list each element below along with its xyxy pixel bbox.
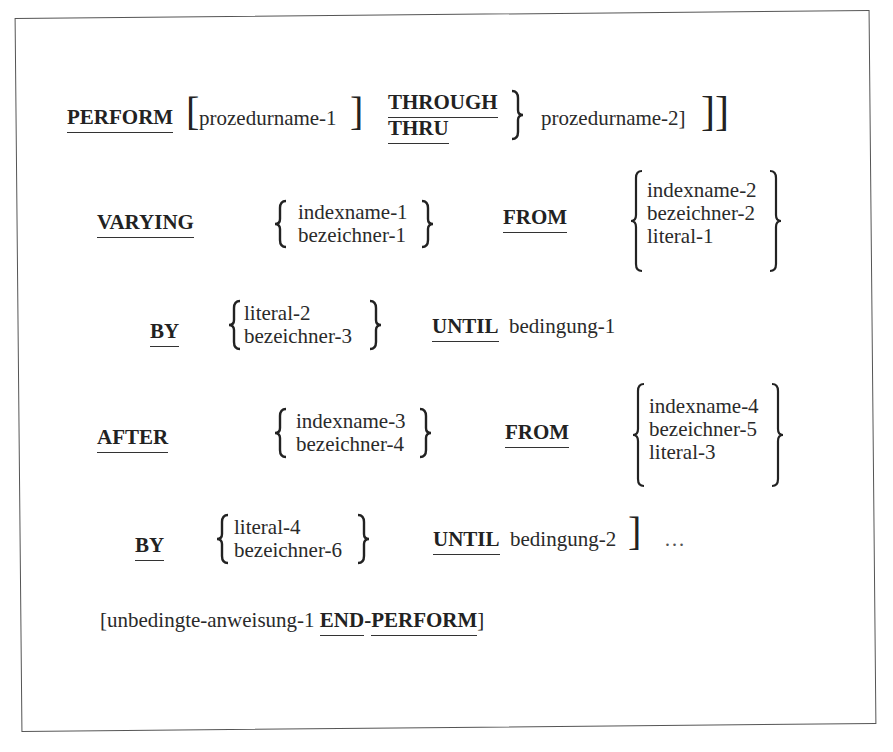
brace-close-icon (770, 383, 786, 487)
keyword-after: AFTER (97, 427, 168, 448)
brace-open-icon (272, 408, 288, 458)
choice-indexname-2: indexname-2 (647, 179, 757, 202)
condition-1: bedingung-1 (509, 316, 615, 337)
bracket-close: ] (477, 608, 484, 632)
from-choices: indexname-4 bezeichner-5 literal-3 (649, 395, 759, 464)
procedure-name-2: prozedurname-2] (541, 108, 686, 129)
brace-close-icon (420, 200, 436, 248)
keyword-by: BY (150, 321, 179, 342)
brace-open-icon (214, 514, 230, 564)
brace-close-icon (418, 408, 434, 458)
brace-close-icon (510, 90, 526, 140)
unconditional-statement: [unbedingte-anweisung-1 END-PERFORM] (100, 610, 484, 631)
keyword-end-perform: PERFORM (371, 608, 477, 636)
by-choices: literal-4 bezeichner-6 (234, 516, 342, 562)
choice-literal-2: literal-2 (244, 302, 352, 325)
ellipsis-repeat: … (664, 529, 685, 550)
optional-bracket-open: [ (186, 92, 199, 132)
choice-literal-1: literal-1 (647, 225, 757, 248)
outer-bracket-close: ] (628, 512, 641, 552)
choice-indexname-4: indexname-4 (649, 395, 759, 418)
brace-open-icon (630, 383, 646, 487)
brace-open-icon (628, 170, 644, 272)
keyword-through: THROUGH (388, 92, 498, 113)
choice-bezeichner-3: bezeichner-3 (244, 325, 352, 348)
choice-literal-4: literal-4 (234, 516, 342, 539)
brace-open-icon (226, 300, 242, 350)
statement-text: [unbedingte-anweisung-1 (100, 608, 315, 632)
keyword-from: FROM (505, 422, 569, 443)
keyword-varying: VARYING (97, 212, 194, 233)
from-choices: indexname-2 bezeichner-2 literal-1 (647, 179, 757, 248)
choice-bezeichner-4: bezeichner-4 (296, 433, 406, 456)
brace-open-icon (272, 200, 288, 248)
keyword-perform: PERFORM (67, 107, 173, 128)
choice-indexname-3: indexname-3 (296, 410, 406, 433)
optional-bracket-close: ] (350, 92, 363, 132)
choice-bezeichner-2: bezeichner-2 (647, 202, 757, 225)
choice-literal-3: literal-3 (649, 441, 759, 464)
choice-bezeichner-5: bezeichner-5 (649, 418, 759, 441)
keyword-until: UNTIL (433, 529, 500, 550)
after-choices: indexname-3 bezeichner-4 (296, 410, 406, 456)
keyword-from: FROM (503, 207, 567, 228)
outer-bracket-close: ]] (701, 90, 729, 132)
keyword-end: END (320, 608, 364, 636)
keyword-until: UNTIL (432, 316, 499, 337)
procedure-name-1: prozedurname-1 (199, 108, 337, 129)
keyword-by: BY (135, 535, 164, 556)
condition-2: bedingung-2 (510, 529, 616, 550)
by-choices: literal-2 bezeichner-3 (244, 302, 352, 348)
brace-close-icon (368, 300, 384, 350)
brace-close-icon (356, 514, 372, 564)
brace-close-icon (768, 170, 784, 272)
varying-choices: indexname-1 bezeichner-1 (298, 201, 408, 247)
choice-bezeichner-6: bezeichner-6 (234, 539, 342, 562)
choice-bezeichner-1: bezeichner-1 (298, 224, 408, 247)
choice-indexname-1: indexname-1 (298, 201, 408, 224)
keyword-thru: THRU (388, 118, 449, 139)
